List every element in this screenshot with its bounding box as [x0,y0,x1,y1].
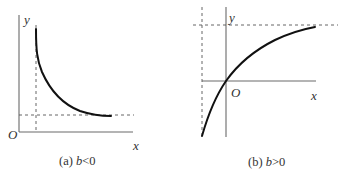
panel-a-x-label: x [132,138,139,153]
panel-a-caption: (a) b<0 [59,154,96,168]
panel-a-curve [36,29,111,116]
panel-a-origin-label: O [8,127,18,142]
panel-a-y-label: y [22,12,30,27]
panel-b: y O x (b) b>0 [193,7,338,169]
panel-b-origin-label: O [231,85,241,100]
figure-canvas: y O x (a) b<0 y O x (b) b>0 [0,0,345,182]
panel-b-y-label: y [227,10,235,25]
panel-b-x-label: x [310,88,317,103]
panel-a: y O x (a) b<0 [8,12,139,168]
panel-b-caption: (b) b>0 [248,155,285,169]
